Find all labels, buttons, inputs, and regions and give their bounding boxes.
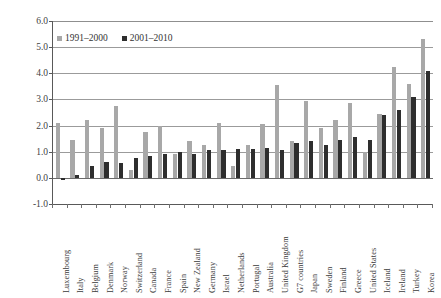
bar [192, 154, 196, 178]
legend-swatch-icon [57, 36, 62, 41]
x-tick-mark [110, 204, 111, 208]
y-tick-label: 0.0 [17, 173, 48, 183]
x-axis-label: United States [370, 248, 378, 293]
legend-swatch-icon [122, 36, 127, 41]
x-tick-mark [300, 204, 301, 208]
bar [290, 141, 294, 178]
y-tick-label: 5.0 [17, 42, 48, 52]
legend-entry: 1991–2000 [57, 33, 108, 43]
x-tick-mark [52, 204, 53, 208]
bar [173, 154, 177, 178]
legend-label: 2001–2010 [130, 33, 173, 43]
bar-group [126, 21, 141, 204]
x-axis-label: Portugal [253, 264, 261, 293]
bar [265, 148, 269, 178]
bar-group [155, 21, 170, 204]
bar [397, 110, 401, 178]
bar-group [185, 21, 200, 204]
bar [231, 166, 235, 178]
bar [178, 152, 182, 178]
x-axis-label: Japan [311, 274, 319, 293]
bar-group [258, 21, 273, 204]
bar [75, 175, 79, 178]
bar-group [82, 21, 97, 204]
bar [114, 106, 118, 178]
bar-group [404, 21, 419, 204]
bar-group [199, 21, 214, 204]
x-axis-label: Belgium [92, 264, 100, 293]
bar-group [141, 21, 156, 204]
x-axis-label: Finland [340, 267, 348, 293]
x-tick-mark [67, 204, 68, 208]
bar [221, 150, 225, 177]
bar [407, 84, 411, 178]
bar [143, 132, 147, 178]
x-tick-mark [359, 204, 360, 208]
bar-group [111, 21, 126, 204]
x-tick-mark [140, 204, 141, 208]
chart-legend: 1991–20002001–2010 [57, 33, 173, 43]
bar-group [418, 21, 433, 204]
bars-layer [53, 21, 433, 204]
bar [309, 141, 313, 178]
bar [202, 145, 206, 178]
bar [187, 141, 191, 178]
x-axis-label: New Zealand [194, 248, 202, 293]
x-tick-mark [125, 204, 126, 208]
bar-group [360, 21, 375, 204]
bar [163, 154, 167, 178]
bar [333, 120, 337, 178]
x-axis-label: Iceland [384, 268, 392, 293]
y-tick-label: 4.0 [17, 68, 48, 78]
x-axis-label: Denmark [107, 262, 115, 293]
bar [324, 145, 328, 178]
bar [104, 162, 108, 178]
x-tick-mark [286, 204, 287, 208]
bar-group [316, 21, 331, 204]
x-tick-mark [213, 204, 214, 208]
x-axis-label: Turkey [413, 269, 421, 293]
bar [158, 126, 162, 178]
x-axis-label: Spain [180, 274, 188, 293]
x-axis-label: Ireland [399, 269, 407, 293]
bar-group [228, 21, 243, 204]
bar [260, 124, 264, 178]
x-axis-label: Italy [77, 277, 85, 293]
bar [377, 114, 381, 178]
bar [348, 103, 352, 178]
bar-group [345, 21, 360, 204]
x-tick-mark [271, 204, 272, 208]
bar [85, 120, 89, 178]
legend-label: 1991–2000 [65, 33, 108, 43]
bar [56, 123, 60, 178]
bar [382, 115, 386, 178]
bar [275, 85, 279, 178]
x-tick-mark [227, 204, 228, 208]
bar-group [272, 21, 287, 204]
bar [411, 97, 415, 178]
x-axis-label: France [165, 270, 173, 293]
bar [134, 158, 138, 178]
x-tick-mark [169, 204, 170, 208]
bar [148, 156, 152, 178]
x-tick-mark [81, 204, 82, 208]
bar-group [214, 21, 229, 204]
bar [421, 39, 425, 178]
bar-group [53, 21, 68, 204]
bar [368, 140, 372, 178]
x-axis-label: Germany [209, 262, 217, 293]
x-tick-mark [403, 204, 404, 208]
bar-group [97, 21, 112, 204]
bar [70, 140, 74, 178]
bar-group [170, 21, 185, 204]
x-tick-mark [257, 204, 258, 208]
x-tick-mark [315, 204, 316, 208]
x-tick-mark [184, 204, 185, 208]
bar [304, 101, 308, 178]
x-axis-labels: LuxembourgItalyBelgiumDenmarkNorwaySwitz… [52, 209, 432, 295]
bar [392, 67, 396, 178]
bar-group [243, 21, 258, 204]
x-axis-label: Norway [121, 266, 129, 293]
x-tick-mark [374, 204, 375, 208]
bar-group [375, 21, 390, 204]
